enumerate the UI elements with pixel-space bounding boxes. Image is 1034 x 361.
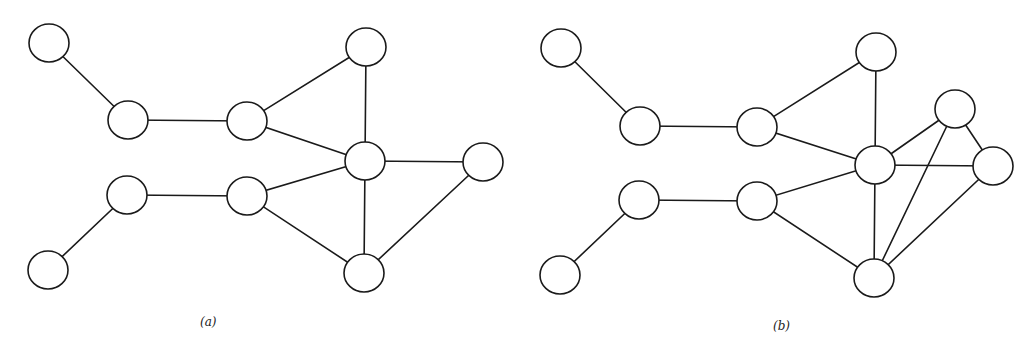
panel-a: (a) [28, 24, 503, 329]
node-b9 [737, 182, 777, 220]
panel-b-edges [560, 48, 993, 278]
panel-a-caption: (a) [200, 315, 217, 329]
node-a4 [346, 28, 386, 66]
node-a5 [345, 142, 385, 180]
panel-a-nodes [28, 24, 503, 292]
node-a10 [344, 254, 384, 292]
panel-b-caption: (b) [773, 319, 790, 333]
node-a8 [227, 177, 267, 215]
edge-b9-b11 [757, 201, 874, 278]
node-b7 [973, 147, 1013, 185]
panel-b-nodes [540, 29, 1013, 297]
panel-b: (b) [540, 29, 1013, 333]
node-a1 [29, 24, 69, 62]
node-a3 [227, 102, 267, 140]
edge-a6-a10 [364, 162, 483, 273]
node-a7 [107, 176, 147, 214]
node-b4 [856, 33, 896, 71]
node-b2 [620, 107, 660, 145]
node-b5 [855, 146, 895, 184]
node-b3 [737, 108, 777, 146]
node-a9 [28, 251, 68, 289]
graph-figure: (a) (b) [0, 0, 1034, 361]
edge-a8-a10 [247, 196, 364, 273]
panel-a-edges [48, 43, 483, 273]
edge-b3-b4 [757, 52, 876, 127]
node-a2 [108, 101, 148, 139]
edge-b7-b11 [874, 166, 993, 278]
node-b8 [619, 181, 659, 219]
node-b11 [854, 259, 894, 297]
node-b10 [540, 256, 580, 294]
edge-a3-a4 [247, 47, 366, 121]
node-b1 [541, 29, 581, 67]
node-b6 [935, 90, 975, 128]
node-a6 [463, 143, 503, 181]
edge-b6-b11 [874, 109, 955, 278]
